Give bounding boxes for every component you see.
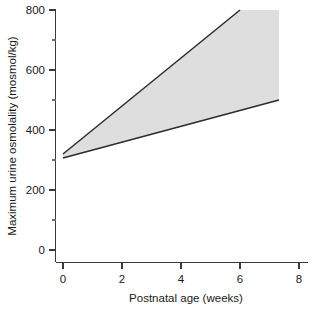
x-tick-label-8: 8 [296, 273, 302, 285]
x-tick-label-0: 0 [60, 273, 66, 285]
x-tick-label-4: 4 [178, 273, 185, 285]
y-tick-label-600: 600 [26, 64, 45, 76]
y-tick-label-200: 200 [26, 184, 45, 196]
y-axis-title: Maximum urine osmolality (mosmol/kg) [6, 36, 18, 236]
x-tick-label-2: 2 [119, 273, 125, 285]
y-tick-label-0: 0 [39, 244, 45, 256]
chart-figure: 800 600 400 200 0 Maximum urine osmolali… [0, 0, 314, 312]
y-axis: 800 600 400 200 0 Maximum urine osmolali… [6, 4, 56, 262]
y-tick-label-800: 800 [26, 4, 45, 16]
osmolality-range-band [63, 10, 279, 158]
x-axis-title: Postnatal age (weeks) [129, 292, 243, 304]
band-fill-area [63, 10, 279, 158]
x-tick-label-6: 6 [237, 273, 243, 285]
x-axis: 0 2 4 6 8 Postnatal age (weeks) [56, 263, 309, 305]
y-tick-label-400: 400 [26, 124, 45, 136]
urine-osmolality-chart: 800 600 400 200 0 Maximum urine osmolali… [0, 0, 314, 312]
